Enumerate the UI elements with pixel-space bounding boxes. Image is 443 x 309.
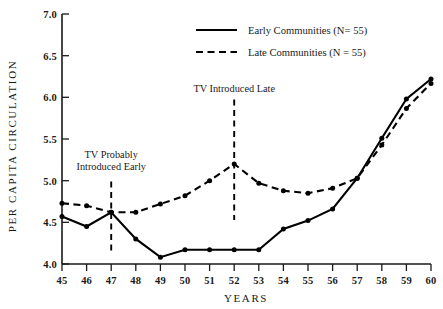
late-communities-points <box>60 81 434 215</box>
x-tick-label: 59 <box>401 275 412 286</box>
x-tick-label: 58 <box>376 275 387 286</box>
x-tick-label: 55 <box>303 275 314 286</box>
y-tick-label: 5.0 <box>43 176 57 187</box>
y-tick-label: 4.0 <box>43 259 57 270</box>
x-tick-label: 57 <box>352 275 363 286</box>
x-tick-label: 52 <box>229 275 240 286</box>
x-tick-label: 45 <box>57 275 68 286</box>
y-tick-label: 4.5 <box>43 217 57 228</box>
x-axis-ticks <box>62 264 431 271</box>
y-tick-label: 5.5 <box>43 134 57 145</box>
y-tick-label: 7.0 <box>43 9 57 20</box>
x-tick-label: 54 <box>278 275 289 286</box>
tv-early-label-line1: TV Probably <box>85 149 139 160</box>
y-tick-label: 6.5 <box>43 51 57 62</box>
chart-figure: 4.0 4.5 5.0 5.5 6.0 6.5 7.0 <box>0 0 443 309</box>
y-axis-ticks <box>62 14 69 264</box>
annotation-tv-early: TV Probably Introduced Early <box>76 149 146 251</box>
y-tick-label: 6.0 <box>43 92 57 103</box>
x-tick-label: 50 <box>180 275 191 286</box>
x-axis-tick-labels: 45 46 47 48 49 50 51 52 53 54 55 56 57 5… <box>57 275 437 286</box>
line-chart: 4.0 4.5 5.0 5.5 6.0 6.5 7.0 <box>0 0 443 309</box>
y-axis-tick-labels: 4.0 4.5 5.0 5.5 6.0 6.5 7.0 <box>43 9 57 270</box>
x-tick-label: 56 <box>327 275 338 286</box>
x-tick-label: 53 <box>253 275 264 286</box>
chart-legend: Early Communities (N= 55) Late Communiti… <box>196 25 368 59</box>
x-tick-label: 60 <box>426 275 437 286</box>
x-tick-label: 46 <box>81 275 92 286</box>
x-tick-label: 48 <box>130 275 141 286</box>
annotation-tv-late: TV Introduced Late <box>193 83 275 220</box>
tv-early-label-line2: Introduced Early <box>76 161 146 172</box>
x-tick-label: 51 <box>204 275 215 286</box>
y-axis-title: PER CAPITA CIRCULATION <box>6 60 18 232</box>
x-tick-label: 47 <box>106 275 117 286</box>
legend-label-late: Late Communities (N = 55) <box>248 47 366 59</box>
axes <box>62 14 431 264</box>
tv-late-label: TV Introduced Late <box>193 83 275 94</box>
series-late-communities <box>60 81 434 215</box>
x-axis-title: YEARS <box>224 292 268 304</box>
legend-label-early: Early Communities (N= 55) <box>248 25 368 37</box>
x-tick-label: 49 <box>155 275 166 286</box>
